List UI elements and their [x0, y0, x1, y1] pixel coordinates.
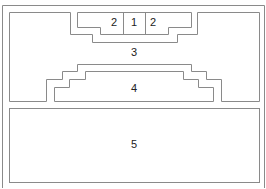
zone-diagram: 2 1 2 3 4 5 [0, 0, 266, 188]
region-2-left-label: 2 [111, 16, 117, 28]
region-3-label: 3 [131, 46, 137, 58]
region-4-label: 4 [131, 82, 137, 94]
outer-border [3, 6, 265, 189]
region-1-label: 1 [131, 16, 137, 28]
region-2-right-label: 2 [150, 16, 156, 28]
region-5-label: 5 [131, 138, 137, 150]
